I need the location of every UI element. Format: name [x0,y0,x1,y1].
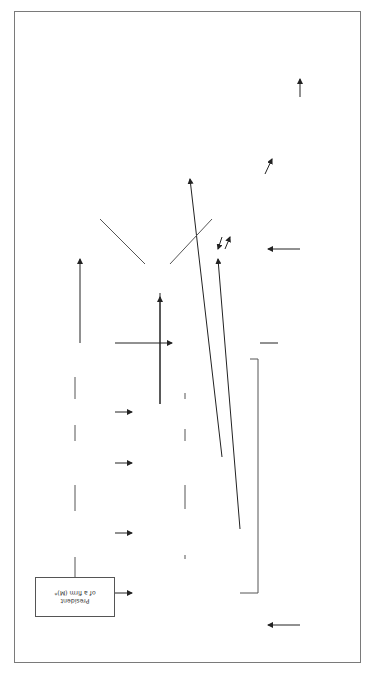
diagram [0,0,390,689]
